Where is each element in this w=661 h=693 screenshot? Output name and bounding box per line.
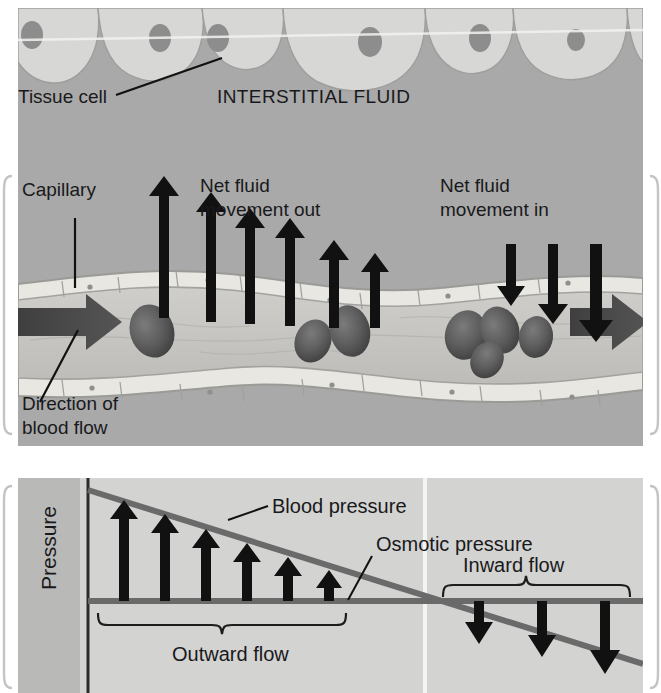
net-fluid-in-label-line1: Net fluid — [440, 175, 510, 196]
figure-root: Tissue cell INTERSTITIAL FLUID — [0, 0, 661, 693]
osmotic-pressure-label: Osmotic pressure — [376, 533, 533, 555]
blood-pressure-label: Blood pressure — [272, 495, 407, 517]
cell-nucleus — [358, 27, 382, 57]
tissue-panel — [18, 8, 643, 158]
pressure-axis-label: Pressure — [37, 506, 60, 590]
chart-divider — [423, 478, 427, 693]
net-fluid-out-label-line1: Net fluid — [200, 175, 270, 196]
cell-nucleus — [21, 21, 43, 49]
direction-label-line1: Direction of — [22, 393, 119, 414]
direction-label-line2: blood flow — [22, 417, 108, 438]
cell-nucleus — [469, 24, 491, 52]
inward-flow-label: Inward flow — [463, 554, 565, 576]
tissue-cell-label: Tissue cell — [18, 86, 107, 107]
capillary-label: Capillary — [22, 179, 96, 200]
diagram-canvas: Tissue cell INTERSTITIAL FLUID — [0, 0, 661, 693]
net-fluid-in-label-line2: movement in — [440, 199, 549, 220]
interstitial-fluid-label: INTERSTITIAL FLUID — [217, 86, 410, 107]
outward-flow-label: Outward flow — [172, 643, 289, 665]
net-fluid-out-label-line2: movement out — [200, 199, 321, 220]
